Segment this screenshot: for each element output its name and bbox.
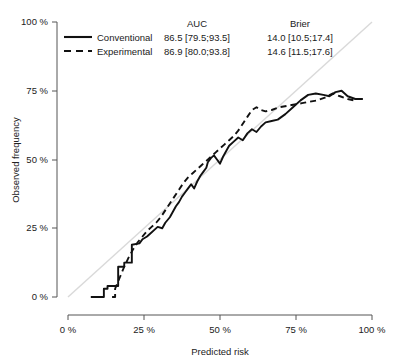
legend-header-auc: AUC [187,18,207,29]
legend-row-conventional: Conventional 86.5 [79.5;93.5] 14.0 [10.5… [64,32,333,43]
calibration-plot-figure: 100 % 75 % 50 % 25 % 0 % Observed freque… [0,0,403,363]
legend-brier-experimental: 14.6 [11.5;17.6] [267,46,332,57]
y-tick-label-75: 75 % [26,85,48,96]
y-tick-label-0: 0 % [32,291,49,302]
x-tick-label-50: 50 % [209,324,231,335]
x-axis: 0 % 25 % 50 % 75 % 100 % Predicted risk [60,315,386,357]
legend-brier-conventional: 14.0 [10.5;17.4] [267,32,333,43]
y-tick-label-25: 25 % [26,222,48,233]
y-axis-title: Observed frequency [10,117,21,203]
x-tick-label-75: 75 % [285,324,307,335]
x-tick-label-100: 100 % [359,324,386,335]
legend-header-brier: Brier [290,18,310,29]
plot-canvas: 100 % 75 % 50 % 25 % 0 % Observed freque… [0,0,403,363]
y-axis: 100 % 75 % 50 % 25 % 0 % Observed freque… [10,16,57,302]
legend-auc-experimental: 86.9 [80.0;93.8] [164,46,230,57]
legend-label-experimental: Experimental [97,46,152,57]
legend-auc-conventional: 86.5 [79.5;93.5] [164,32,230,43]
legend-label-conventional: Conventional [97,32,152,43]
curve-experimental [112,94,354,298]
y-tick-label-50: 50 % [26,154,48,165]
y-tick-label-100: 100 % [21,16,48,27]
diagonal-identity-line [68,22,372,297]
curve-conventional [91,91,363,297]
x-tick-label-0: 0 % [60,324,77,335]
x-axis-title: Predicted risk [191,346,249,357]
legend: AUC Brier Conventional 86.5 [79.5;93.5] … [64,18,333,57]
x-tick-label-25: 25 % [133,324,155,335]
legend-row-experimental: Experimental 86.9 [80.0;93.8] 14.6 [11.5… [64,46,333,57]
